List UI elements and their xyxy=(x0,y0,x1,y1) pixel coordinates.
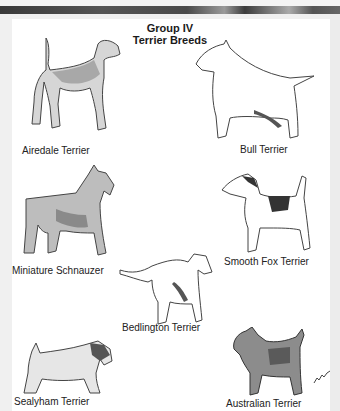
artist-signature xyxy=(313,370,331,384)
miniature-schnauzer-illustration xyxy=(16,163,116,263)
sealyham-terrier-illustration xyxy=(14,337,114,395)
breed-label-miniature-schnauzer: Miniature Schnauzer xyxy=(12,265,104,276)
airedale-terrier-illustration xyxy=(22,30,122,136)
smooth-fox-terrier-illustration xyxy=(218,168,320,258)
breed-label-bull: Bull Terrier xyxy=(240,144,288,155)
decorative-header-bar xyxy=(0,6,340,14)
bedlington-terrier-illustration xyxy=(118,252,214,328)
page-edge xyxy=(330,14,340,411)
bull-terrier-illustration xyxy=(194,40,322,146)
breed-label-airedale: Airedale Terrier xyxy=(22,145,90,156)
breed-label-australian: Australian Terrier xyxy=(226,398,301,409)
australian-terrier-illustration xyxy=(228,327,308,399)
breed-label-bedlington: Bedlington Terrier xyxy=(122,322,200,333)
breed-label-smooth-fox: Smooth Fox Terrier xyxy=(224,256,309,267)
breed-label-sealyham: Sealyham Terrier xyxy=(14,396,89,407)
